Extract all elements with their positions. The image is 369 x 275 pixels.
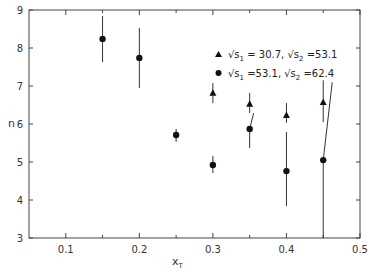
legend-circle-marker <box>216 70 222 76</box>
y-tick-label: 3 <box>17 233 23 244</box>
legend-entry-2: √s1 =53.1, √s2 =62.4 <box>228 68 334 82</box>
x-tick-label: 0.1 <box>58 244 74 255</box>
axis-ticks: 34567890.10.20.30.40.5 <box>17 5 368 255</box>
x-tick-label: 0.2 <box>131 244 147 255</box>
x-tick-label: 0.5 <box>352 244 368 255</box>
y-tick-label: 4 <box>17 195 23 206</box>
chart: 34567890.10.20.30.40.5 √s1 = 30.7, √s2 =… <box>0 0 369 275</box>
legend-triangle-marker <box>215 51 222 57</box>
circle-marker <box>136 55 142 61</box>
plot-frame <box>29 10 360 238</box>
circle-marker <box>210 162 216 168</box>
triangle-marker <box>320 98 327 105</box>
y-tick-label: 7 <box>17 81 23 92</box>
triangle-marker <box>283 111 290 118</box>
y-tick-label: 9 <box>17 5 23 16</box>
y-tick-label: 5 <box>17 157 23 168</box>
circle-marker <box>99 36 105 42</box>
x-tick-label: 0.4 <box>278 244 294 255</box>
circle-marker <box>246 126 252 132</box>
y-tick-label: 6 <box>17 119 23 130</box>
legend: √s1 = 30.7, √s2 =53.1 √s1 =53.1, √s2 =62… <box>215 49 337 82</box>
triangle-marker <box>209 89 216 96</box>
circle-marker <box>283 168 289 174</box>
x-tick-label: 0.3 <box>205 244 221 255</box>
circle-marker <box>320 157 326 163</box>
y-axis-label: n <box>8 117 15 130</box>
x-axis-label: xT <box>172 255 184 270</box>
axes-box <box>29 10 360 238</box>
circle-marker <box>173 132 179 138</box>
triangle-marker <box>246 100 253 107</box>
y-tick-label: 8 <box>17 43 23 54</box>
legend-entry-1: √s1 = 30.7, √s2 =53.1 <box>228 49 337 63</box>
